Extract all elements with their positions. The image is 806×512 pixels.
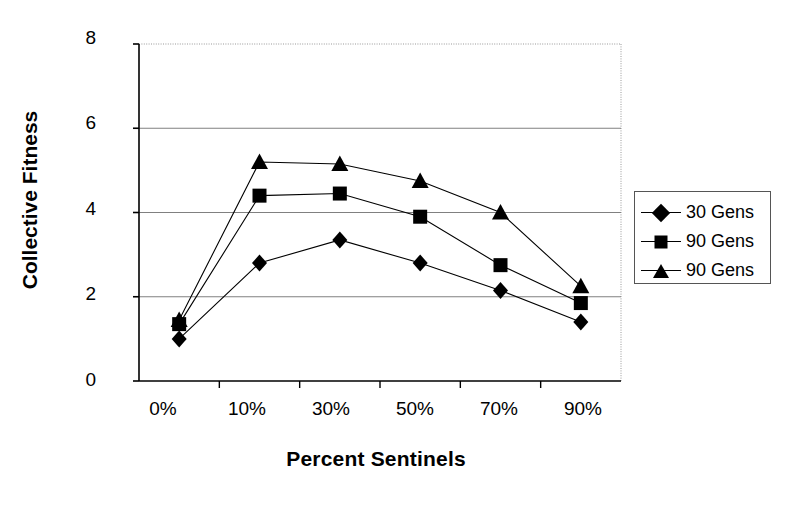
diamond-marker-icon [652,203,670,221]
diamond-marker [252,255,267,272]
x-tick-label-30pct: 30% [289,398,373,420]
triangle-marker [251,153,268,169]
square-marker-icon [655,235,668,248]
x-tick-label-90pct: 90% [541,398,625,420]
x-tick-label-10pct: 10% [205,398,289,420]
y-axis-title: Collective Fitness [18,111,42,290]
legend-label-2: 90 Gens [681,260,754,281]
square-marker [494,258,508,272]
diamond-marker [332,231,347,248]
square-marker [574,296,588,310]
diamond-marker [573,314,588,331]
line-chart: 8 6 4 2 0 0% 10% 30% 50% 70% 90% Collect… [0,0,806,512]
x-axis-title: Percent Sentinels [286,447,466,470]
triangle-marker-icon [653,264,669,278]
legend-item-90-gens-triangle: 90 Gens [635,256,770,285]
series-line-0 [179,240,581,339]
x-tick-label-70pct: 70% [457,398,541,420]
square-marker [333,187,347,201]
legend-label-0: 30 Gens [681,202,754,223]
y-tick-label-4: 4 [62,198,96,220]
legend-item-90-gens-square: 90 Gens [635,227,770,256]
y-tick-label-8: 8 [62,27,96,49]
y-tick-label-2: 2 [62,283,96,305]
legend-swatch-square [641,232,681,252]
square-marker [413,210,427,224]
legend-label-1: 90 Gens [681,231,754,252]
y-tick-label-6: 6 [62,112,96,134]
legend-item-30-gens: 30 Gens [635,198,770,227]
series-line-1 [179,194,581,325]
y-tick-label-0: 0 [62,369,96,391]
y-axis-title-container: Collective Fitness [8,0,52,400]
chart-legend: 30 Gens 90 Gens 90 Gens [634,191,771,284]
triangle-marker [331,156,348,172]
triangle-marker [492,204,509,220]
legend-swatch-triangle [641,261,681,281]
x-tick-label-50pct: 50% [373,398,457,420]
legend-swatch-diamond [641,203,681,223]
square-marker [253,189,267,203]
x-tick-label-0pct: 0% [121,398,205,420]
diamond-marker [413,255,428,272]
x-axis-title-container: Percent Sentinels [130,447,622,471]
diamond-marker [172,330,187,347]
